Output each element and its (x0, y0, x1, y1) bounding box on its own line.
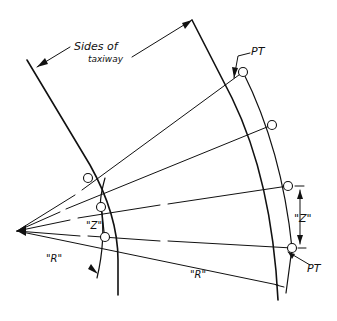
inner-point-1 (84, 174, 93, 183)
label-taxiway: taxiway (88, 54, 124, 64)
outer-point-4 (288, 244, 297, 253)
outer-point-3 (284, 182, 293, 191)
label-pt-top: PT (251, 45, 266, 58)
label-z-outer: "Z" (294, 212, 312, 225)
inner-point-2 (97, 203, 106, 212)
inner-point-3 (101, 233, 110, 242)
taxiway-curve-diagram: Sides of taxiway PT PT "Z" "Z" "R" "R" (0, 0, 337, 321)
arrowheads (17, 20, 303, 274)
right-taxiway-edge (192, 20, 278, 300)
outer-point-2 (268, 121, 277, 130)
left-taxiway-edge (27, 60, 118, 295)
label-r-outer: "R" (190, 269, 206, 280)
label-r-inner: "R" (46, 253, 62, 264)
label-pt-bottom: PT (307, 262, 322, 275)
label-z-inner: "Z" (86, 220, 102, 231)
sides-dimension-line-right (132, 20, 192, 57)
label-sides-of: Sides of (74, 40, 120, 53)
outer-point-1 (239, 68, 248, 77)
